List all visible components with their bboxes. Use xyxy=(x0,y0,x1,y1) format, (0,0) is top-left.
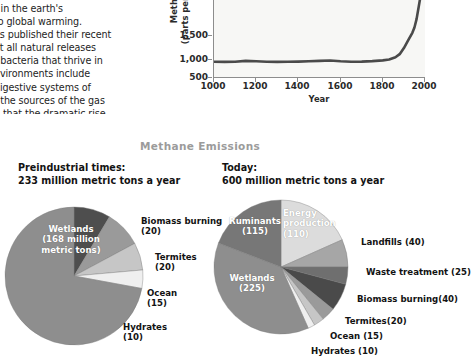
x-tick-1200: 1200 xyxy=(237,81,273,91)
x-tick-2000: 2000 xyxy=(406,81,442,91)
pie-left-label-hydrates: Hydrates (10) xyxy=(123,322,167,343)
body-text-line: to global warming. xyxy=(0,15,162,28)
today-heading-line1: Today: xyxy=(222,162,384,175)
body-text-line: at all natural releases xyxy=(0,41,162,54)
body-text-line: f the sources of the gas xyxy=(0,94,162,107)
pie-right-label-ocean: Ocean (15) xyxy=(330,331,383,341)
body-text-line: es published their recent xyxy=(0,28,162,41)
chart-x-axis-label: Year xyxy=(213,94,425,104)
today-heading-line2: 600 million metric tons a year xyxy=(222,175,384,188)
y-axis-label-line2: (parts per billion) xyxy=(179,0,190,48)
body-text-column: t in the earth's to global warming. es p… xyxy=(0,2,162,114)
today-heading: Today: 600 million metric tons a year xyxy=(222,162,384,187)
wetlands-label-line3: metric tons) xyxy=(25,245,117,255)
body-text-line: digestive systems of xyxy=(0,81,162,94)
x-tick-1600: 1600 xyxy=(322,81,358,91)
pie-left-label-biomass-burning: Biomass burning (20) xyxy=(141,216,222,237)
x-tick-1400: 1400 xyxy=(279,81,315,91)
preindustrial-heading: Preindustrial times: 233 million metric … xyxy=(18,162,180,187)
x-tick-1800: 1800 xyxy=(364,81,400,91)
methane-line-series xyxy=(214,0,425,77)
y-axis-label-line1: Methane xyxy=(169,0,180,48)
pie-left-label-ocean: Ocean (15) xyxy=(147,288,177,309)
chart-plot-area xyxy=(213,0,425,78)
body-text-line: t in the earth's xyxy=(0,2,162,15)
body-text-line: nvironments include xyxy=(0,67,162,80)
preindustrial-heading-line2: 233 million metric tons a year xyxy=(18,175,180,188)
body-text-line: d that the dramatic rise xyxy=(0,107,162,114)
wetlands-label-line1: Wetlands xyxy=(25,224,117,234)
pie-right-label-waste-treatment: Waste treatment (25) xyxy=(366,267,471,277)
x-tick-1000: 1000 xyxy=(195,81,231,91)
pie-right-label-termites: Termites(20) xyxy=(345,316,407,326)
section-title: Methane Emissions xyxy=(140,140,260,152)
pie-right-label-hydrates: Hydrates (10) xyxy=(311,346,378,356)
y-tick-1500: 1,500 xyxy=(150,30,208,40)
pie-left-label-wetlands: Wetlands (168 million metric tons) xyxy=(25,224,117,255)
body-text-line: f bacteria that thrive in xyxy=(0,54,162,67)
pie-right-label-landfills: Landfills (40) xyxy=(361,237,425,247)
pie-right-label-energy-production: Energy production (110) xyxy=(283,208,345,239)
wetlands-label-line2: (168 million xyxy=(25,234,117,244)
pie-right-label-wetlands: Wetlands (225) xyxy=(221,273,283,294)
chart-y-axis-label: Methane (parts per billion) xyxy=(169,0,190,48)
pie-right-label-biomass-burning: Biomass burning(40) xyxy=(357,294,458,304)
methane-concentration-chart: Methane (parts per billion) 1,500 1,000 … xyxy=(150,0,455,113)
y-tick-1000: 1,000 xyxy=(150,54,208,64)
preindustrial-heading-line1: Preindustrial times: xyxy=(18,162,180,175)
pie-right-label-ruminants: Ruminants (115) xyxy=(224,216,286,237)
pie-left-label-termites: Termites (20) xyxy=(155,252,197,273)
